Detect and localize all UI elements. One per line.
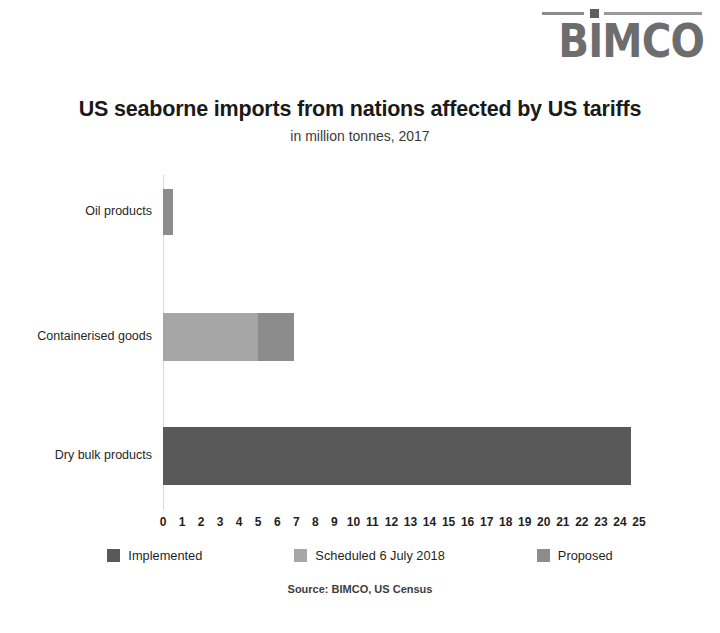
x-tick-label: 14 [423, 515, 436, 529]
x-tick-label: 17 [480, 515, 493, 529]
bimco-logo: BIMCO [524, 8, 704, 64]
legend-item[interactable]: Implemented [107, 548, 202, 563]
bar-row: Oil products [0, 189, 720, 235]
x-tick-label: 7 [293, 515, 300, 529]
x-tick-label: 12 [385, 515, 398, 529]
bar-row: Containerised goods [0, 313, 720, 361]
x-tick-label: 22 [575, 515, 588, 529]
category-label: Oil products [0, 204, 152, 218]
chart-title: US seaborne imports from nations affecte… [0, 97, 720, 122]
x-tick-label: 24 [613, 515, 626, 529]
chart-subtitle: in million tonnes, 2017 [0, 128, 720, 144]
bar-segment [163, 427, 631, 485]
logo-wordmark: BIMCO [549, 19, 704, 64]
bar-segment [163, 189, 173, 235]
chart-legend: ImplementedScheduled 6 July 2018Proposed [0, 548, 720, 563]
x-tick-label: 16 [461, 515, 474, 529]
bar-row: Dry bulk products [0, 427, 720, 485]
x-tick-label: 20 [537, 515, 550, 529]
source-note: Source: BIMCO, US Census [0, 583, 720, 595]
x-tick-label: 4 [236, 515, 243, 529]
legend-item[interactable]: Proposed [537, 548, 613, 563]
legend-label: Implemented [128, 548, 202, 563]
x-tick-label: 2 [198, 515, 205, 529]
x-tick-label: 8 [312, 515, 319, 529]
x-tick-label: 9 [331, 515, 338, 529]
x-tick-label: 18 [499, 515, 512, 529]
x-tick-label: 3 [217, 515, 224, 529]
x-tick-label: 13 [404, 515, 417, 529]
legend-swatch-icon [294, 549, 307, 562]
legend-label: Scheduled 6 July 2018 [315, 548, 445, 563]
x-tick-label: 15 [442, 515, 455, 529]
x-tick-label: 0 [160, 515, 167, 529]
x-axis-ticks: 0123456789101112131415161718192021222324… [163, 515, 639, 535]
x-tick-label: 1 [179, 515, 186, 529]
category-label: Containerised goods [0, 329, 152, 343]
x-tick-label: 11 [366, 515, 379, 529]
legend-swatch-icon [107, 549, 120, 562]
bar-segment [163, 313, 258, 361]
x-tick-label: 21 [556, 515, 569, 529]
bar-segment [258, 313, 294, 361]
legend-swatch-icon [537, 549, 550, 562]
x-tick-label: 5 [255, 515, 262, 529]
x-tick-label: 10 [347, 515, 360, 529]
x-tick-label: 19 [518, 515, 531, 529]
x-tick-label: 23 [594, 515, 607, 529]
x-tick-label: 25 [632, 515, 645, 529]
category-label: Dry bulk products [0, 448, 152, 462]
chart-area: Oil productsContainerised goodsDry bulk … [0, 165, 720, 515]
legend-item[interactable]: Scheduled 6 July 2018 [294, 548, 445, 563]
legend-label: Proposed [558, 548, 613, 563]
x-tick-label: 6 [274, 515, 281, 529]
